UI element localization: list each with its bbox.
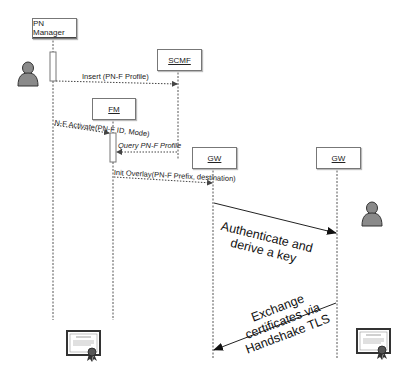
participant-fm: FM xyxy=(92,98,136,120)
certificate-icon xyxy=(357,329,390,360)
participant-pn-manager: PN Manager xyxy=(32,18,77,39)
diagram-canvas xyxy=(0,0,409,380)
user-icon xyxy=(362,202,382,226)
participant-label: GW xyxy=(208,154,222,163)
message-label-query-profile: Query PN-F Profile xyxy=(118,141,181,150)
participant-gw2: GW xyxy=(316,147,361,169)
activation-pn-manager xyxy=(50,52,56,81)
participant-label: PN Manager xyxy=(33,19,76,38)
participant-scmf: SCMF xyxy=(157,49,202,71)
user-icon xyxy=(18,62,38,86)
participant-label: GW xyxy=(332,154,346,163)
participant-label: FM xyxy=(108,105,120,114)
certificate-icon xyxy=(67,331,100,362)
participant-gw1: GW xyxy=(192,147,237,169)
activation-fm xyxy=(110,133,116,162)
arrow-insert xyxy=(56,81,177,84)
participant-label: SCMF xyxy=(168,56,191,65)
message-label-insert: Insert (PN-F Profile) xyxy=(82,72,149,81)
